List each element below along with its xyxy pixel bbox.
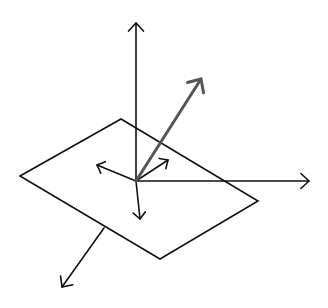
highlight-vector-arrow xyxy=(136,79,204,181)
left-in-plane-arrow xyxy=(97,162,136,181)
down-short-arrow xyxy=(133,181,145,219)
up-axis-arrow xyxy=(129,23,144,181)
upright-in-plane-arrow xyxy=(136,159,168,181)
plane xyxy=(20,119,258,259)
diagram-canvas xyxy=(0,0,328,308)
tilted-plane xyxy=(20,119,258,259)
right-axis-arrow xyxy=(136,174,309,189)
normal-below-arrow xyxy=(61,228,104,287)
arrows-group xyxy=(61,23,309,287)
